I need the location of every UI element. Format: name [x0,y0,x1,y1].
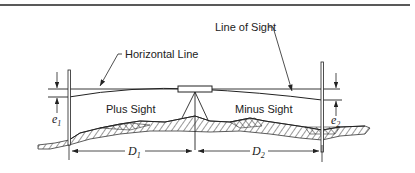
leveling-diagram: Horizontal Line Line of Sight Plus Sight… [0,0,415,173]
e2-label: e2 [331,113,340,129]
d2-label: D2 [251,144,265,160]
minus-sight-label: Minus Sight [235,103,292,115]
line-of-sight-label: Line of Sight [215,21,276,33]
e1-label: e1 [52,112,61,128]
line-of-sight-leader [268,27,292,91]
horizontal-line-leader [100,54,122,86]
d1-label: D1 [127,144,141,160]
ground [38,116,370,149]
plus-sight-label: Plus Sight [106,103,156,115]
left-rod [68,70,71,145]
horizontal-line-label: Horizontal Line [125,48,198,60]
right-rod [321,62,324,152]
